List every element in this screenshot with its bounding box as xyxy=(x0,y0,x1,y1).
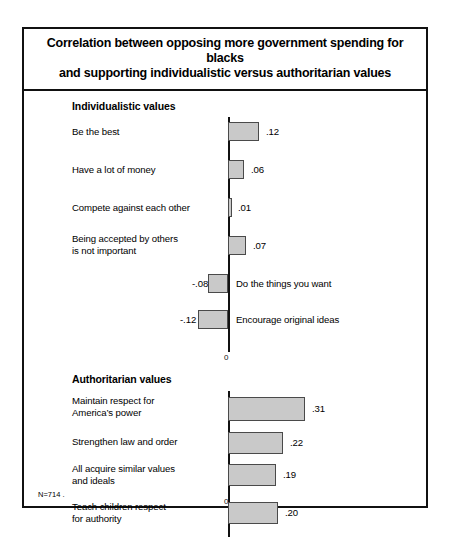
bar-mark xyxy=(228,236,246,255)
bar-value: .22 xyxy=(290,437,303,448)
bar-row-do-the-things-you-want: -.08 Do the things you want xyxy=(24,273,426,299)
bar-label: Compete against each other xyxy=(72,202,224,214)
bar-label: Being accepted by others is not importan… xyxy=(72,233,224,256)
bar-label: Be the best xyxy=(72,126,224,138)
bar-label: All acquire similar values and ideals xyxy=(72,463,224,486)
bar-value: .07 xyxy=(253,240,266,251)
chart-figure: Correlation between opposing more govern… xyxy=(22,27,428,508)
bar-mark xyxy=(228,397,305,421)
section-heading-individualistic: Individualistic values xyxy=(72,100,175,112)
bar-row-teach-children-respect: Teach children respect for authority .20 xyxy=(24,499,426,531)
chart-title-line-1: Correlation between opposing more govern… xyxy=(38,36,412,66)
bar-mark xyxy=(208,274,228,293)
bar-value: .01 xyxy=(238,202,251,213)
bar-value: .06 xyxy=(251,164,264,175)
bar-row-maintain-respect: Maintain respect for America’s power .31 xyxy=(24,393,426,425)
chart-footnote: N=714 . xyxy=(38,490,64,499)
bar-mark xyxy=(228,432,283,454)
chart-title: Correlation between opposing more govern… xyxy=(24,29,426,91)
bar-mark xyxy=(228,122,259,141)
bar-row-compete-against-each-other: Compete against each other .01 xyxy=(24,197,426,223)
bar-value: .19 xyxy=(283,469,296,480)
bar-mark xyxy=(228,198,232,217)
bar-row-strengthen-law-and-order: Strengthen law and order .22 xyxy=(24,431,426,457)
bar-label: Have a lot of money xyxy=(72,164,224,176)
bar-value: .20 xyxy=(285,507,298,518)
bar-mark xyxy=(228,502,278,524)
bar-label: Strengthen law and order xyxy=(72,436,224,448)
plot-area: Individualistic values 0 Be the best .12… xyxy=(24,91,426,527)
zero-tick-label-individualistic: 0 xyxy=(224,353,228,362)
bar-mark xyxy=(228,464,276,486)
bar-label: Teach children respect for authority xyxy=(72,501,224,524)
bar-label: Encourage original ideas xyxy=(236,314,339,326)
bar-row-being-accepted-by-others: Being accepted by others is not importan… xyxy=(24,231,426,263)
bar-row-be-the-best: Be the best .12 xyxy=(24,121,426,147)
bar-value: -.12 xyxy=(180,314,196,325)
bar-row-encourage-original-ideas: -.12 Encourage original ideas xyxy=(24,309,426,335)
bar-value: -.08 xyxy=(192,278,208,289)
bar-value: .31 xyxy=(312,403,325,414)
bar-row-all-acquire-similar-values: All acquire similar values and ideals .1… xyxy=(24,461,426,493)
bar-mark xyxy=(228,160,244,179)
bar-mark xyxy=(198,310,228,329)
bar-label: Do the things you want xyxy=(236,278,331,290)
bar-row-have-a-lot-of-money: Have a lot of money .06 xyxy=(24,159,426,185)
bar-value: .12 xyxy=(266,126,279,137)
bar-label: Maintain respect for America’s power xyxy=(72,395,224,418)
section-heading-authoritarian: Authoritarian values xyxy=(72,373,172,385)
chart-title-line-2: and supporting individualistic versus au… xyxy=(38,66,412,81)
